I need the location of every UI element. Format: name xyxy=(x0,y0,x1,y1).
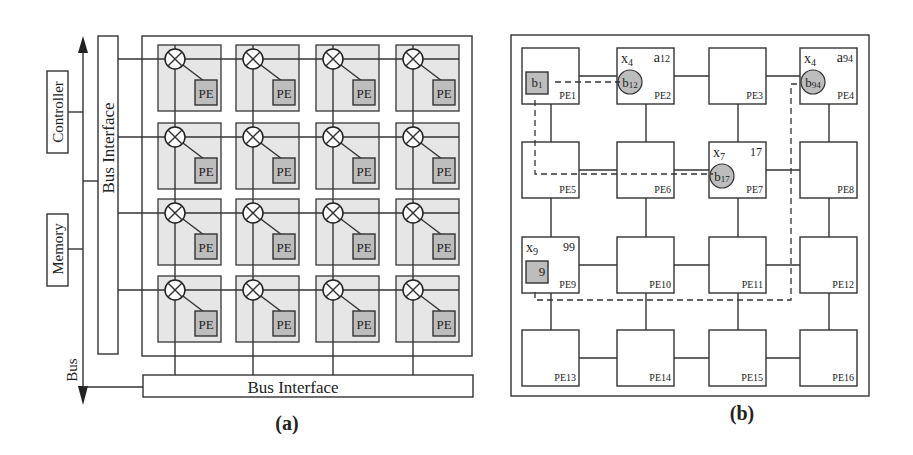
pe-node-id: PE2 xyxy=(654,90,671,101)
pe-node-id: PE7 xyxy=(746,184,763,195)
pe-cell: PE xyxy=(236,276,299,342)
crossbar-switch-icon xyxy=(165,203,185,223)
crossbar-switch-icon xyxy=(323,203,343,223)
pe-cell: PE xyxy=(316,123,379,189)
pe-node-id: PE8 xyxy=(837,184,854,195)
pe-node-pe16: PE16 xyxy=(800,330,857,386)
memory-label: Memory xyxy=(50,223,66,275)
pe-label: PE xyxy=(436,240,451,255)
crossbar-switch-icon xyxy=(243,203,263,223)
pe-label: PE xyxy=(436,164,451,179)
a-label: a12 xyxy=(654,50,670,65)
pe-node-id: PE6 xyxy=(654,184,671,195)
pe-cell: PE xyxy=(236,199,299,265)
crossbar-switch-icon xyxy=(403,127,423,147)
pe-cell: PE xyxy=(396,199,459,265)
panel-a: Controller Memory Bus Bus Interface Bus … xyxy=(47,36,473,435)
pe-cell: PE xyxy=(158,276,221,342)
bus-arrow-up-icon xyxy=(78,36,88,53)
pe-label: PE xyxy=(198,86,213,101)
pe-cell: PE xyxy=(158,45,221,111)
crossbar-switch-icon xyxy=(243,127,263,147)
pe-cell: PE xyxy=(316,199,379,265)
caption-b: (b) xyxy=(730,402,754,425)
pe-label: PE xyxy=(198,164,213,179)
pe-node-pe14: PE14 xyxy=(617,330,674,386)
pe-grid: PEPEPEPEPEPEPEPEPEPEPEPEPEPEPEPE xyxy=(118,45,459,375)
crossbar-switch-icon xyxy=(165,49,185,69)
pe-label: PE xyxy=(356,240,371,255)
pe-cell: PE xyxy=(396,45,459,111)
pe-node-pe2: PE2x4a12b12 xyxy=(617,48,674,104)
crossbar-switch-icon xyxy=(165,280,185,300)
pe-node-id: PE1 xyxy=(559,90,576,101)
bus-interface-vertical-label: Bus Interface xyxy=(99,102,118,193)
pe-label: PE xyxy=(276,86,291,101)
crossbar-switch-icon xyxy=(323,127,343,147)
pe-node-id: PE16 xyxy=(832,372,854,383)
pe-label: PE xyxy=(198,317,213,332)
crossbar-switch-icon xyxy=(323,280,343,300)
bus-label: Bus xyxy=(64,358,80,382)
pe-cell: PE xyxy=(316,276,379,342)
pe-node-id: PE3 xyxy=(746,90,763,101)
crossbar-switch-icon xyxy=(403,203,423,223)
pe-node-pe12: PE12 xyxy=(800,237,857,293)
crossbar-switch-icon xyxy=(323,49,343,69)
pe-node-id: PE12 xyxy=(832,279,854,290)
figure: Controller Memory Bus Bus Interface Bus … xyxy=(0,0,913,455)
data-item-circle: b94 xyxy=(801,70,825,94)
pe-cell: PE xyxy=(236,45,299,111)
pe-node-id: PE4 xyxy=(837,90,854,101)
pe-label: PE xyxy=(276,317,291,332)
pe-node-pe8: PE8 xyxy=(800,142,857,198)
pe-label: PE xyxy=(436,86,451,101)
pe-label: PE xyxy=(356,317,371,332)
pe-node-pe11: PE11 xyxy=(709,237,766,293)
pe-node-id: PE14 xyxy=(649,372,671,383)
pe-node-pe13: PE13 xyxy=(522,330,579,386)
pe-label: PE xyxy=(276,240,291,255)
pe-cell: PE xyxy=(158,199,221,265)
pe-cell: PE xyxy=(396,276,459,342)
bus-arrow-down-icon xyxy=(78,386,88,405)
a-label: 17 xyxy=(750,145,762,159)
pe-cell: PE xyxy=(158,123,221,189)
crossbar-switch-icon xyxy=(243,280,263,300)
pe-node-id: PE9 xyxy=(559,279,576,290)
bus-interface-vertical xyxy=(98,36,118,354)
pe-node-pe4: PE4x4a94b94 xyxy=(800,48,857,104)
pe-node-pe5: PE5 xyxy=(522,142,579,198)
pe-node-pe3: PE3 xyxy=(709,48,766,104)
pe-node-pe1: PE1b1 xyxy=(522,48,579,104)
crossbar-switch-icon xyxy=(243,49,263,69)
pe-label: PE xyxy=(356,164,371,179)
data-item-circle: b17 xyxy=(710,164,734,188)
pe-node-id: PE13 xyxy=(554,372,576,383)
data-item-square: b1 xyxy=(526,72,548,94)
pe-cell: PE xyxy=(396,123,459,189)
pe-node-id: PE10 xyxy=(649,279,671,290)
pe-label: PE xyxy=(436,317,451,332)
crossbar-switch-icon xyxy=(403,49,423,69)
controller-label: Controller xyxy=(50,81,66,143)
data-item-square: 9 xyxy=(526,261,548,283)
pe-node-id: PE15 xyxy=(741,372,763,383)
svg-text:9: 9 xyxy=(539,264,546,279)
pe-node-pe6: PE6 xyxy=(617,142,674,198)
pe-node-pe9: PE9x9999 xyxy=(522,237,579,293)
crossbar-switch-icon xyxy=(165,127,185,147)
pe-node-pe7: PE7x717b17 xyxy=(709,142,766,198)
a-label: 99 xyxy=(563,240,575,254)
a-label: a94 xyxy=(837,50,853,65)
caption-a: (a) xyxy=(275,412,298,435)
crossbar-switch-icon xyxy=(403,280,423,300)
pe-node-id: PE11 xyxy=(742,279,763,290)
pe-label: PE xyxy=(198,240,213,255)
pe-cell: PE xyxy=(236,123,299,189)
pe-node-pe10: PE10 xyxy=(617,237,674,293)
pe-node-id: PE5 xyxy=(559,184,576,195)
panel-b: PE1b1PE2x4a12b12PE3PE4x4a94b94PE5PE6PE7x… xyxy=(511,35,869,425)
pe-cell: PE xyxy=(316,45,379,111)
pe-label: PE xyxy=(356,86,371,101)
